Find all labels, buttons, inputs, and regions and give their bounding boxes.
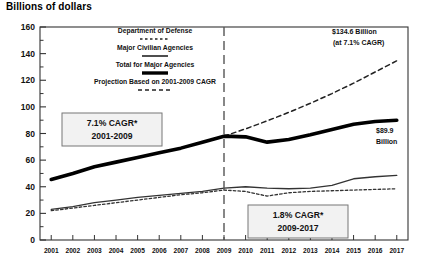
cagr-right-line2: 2009-2017 (277, 223, 318, 233)
x-tick-label: 2003 (87, 247, 102, 254)
x-tick-label: 2017 (389, 247, 404, 254)
cagr-left-line1: 7.1% CAGR* (87, 118, 138, 128)
chart-svg: 020406080100120140160 200120022003200420… (0, 0, 421, 271)
x-tick-label: 2008 (195, 247, 210, 254)
y-tick-label: 20 (26, 208, 36, 218)
cagr-right-line1: 1.8% CAGR* (273, 210, 324, 220)
y-tick-label: 0 (30, 235, 35, 245)
legend-label-0: Department of Defense (118, 27, 193, 35)
y-tick-label: 80 (26, 129, 36, 139)
legend-label-1: Major Civilian Agencies (117, 44, 193, 52)
legend: Department of Defense Major Civilian Age… (94, 27, 216, 90)
x-tick-label: 2006 (152, 247, 167, 254)
y-tick-label: 40 (26, 182, 36, 192)
x-tick-label: 2001 (44, 247, 59, 254)
chart-root: Billions of dollars 02040608010012014016… (0, 0, 421, 271)
x-tick-label: 2015 (346, 247, 361, 254)
series-line-dashed (224, 61, 397, 136)
x-tick-label: 2016 (368, 247, 383, 254)
cagr-box-left: 7.1% CAGR* 2001-2009 (62, 113, 162, 146)
y-tick-label: 60 (26, 155, 36, 165)
endpoint-value-line1: $89.9 (376, 127, 394, 135)
x-tick-label: 2012 (281, 247, 296, 254)
y-tick-label: 140 (21, 49, 35, 59)
cagr-box-right: 1.8% CAGR* 2009-2017 (248, 205, 348, 238)
cagr-left-line2: 2001-2009 (91, 131, 132, 141)
projection-endpoint-annotation: $134.6 Billion (at 7.1% CAGR) (332, 28, 384, 47)
legend-label-3: Projection Based on 2001-2009 CAGR (94, 78, 216, 86)
total-endpoint-annotation: $89.9 Billion (376, 127, 397, 145)
y-axis-ticks: 020406080100120140160 (21, 22, 46, 245)
x-tick-label: 2009 (217, 247, 232, 254)
x-tick-label: 2007 (173, 247, 188, 254)
x-tick-label: 2014 (325, 247, 340, 254)
projection-value-line1: $134.6 Billion (332, 28, 377, 36)
legend-label-2: Total for Major Agencies (116, 61, 195, 69)
y-tick-label: 160 (21, 22, 35, 32)
projection-value-line2: (at 7.1% CAGR) (333, 39, 384, 47)
x-tick-label: 2005 (130, 247, 145, 254)
y-tick-label: 100 (21, 102, 35, 112)
x-tick-label: 2013 (303, 247, 318, 254)
x-tick-label: 2011 (260, 247, 275, 254)
endpoint-value-line2: Billion (376, 138, 397, 145)
x-tick-label: 2004 (109, 247, 124, 254)
x-tick-label: 2010 (238, 247, 253, 254)
x-tick-label: 2002 (65, 247, 80, 254)
y-tick-label: 120 (21, 75, 35, 85)
